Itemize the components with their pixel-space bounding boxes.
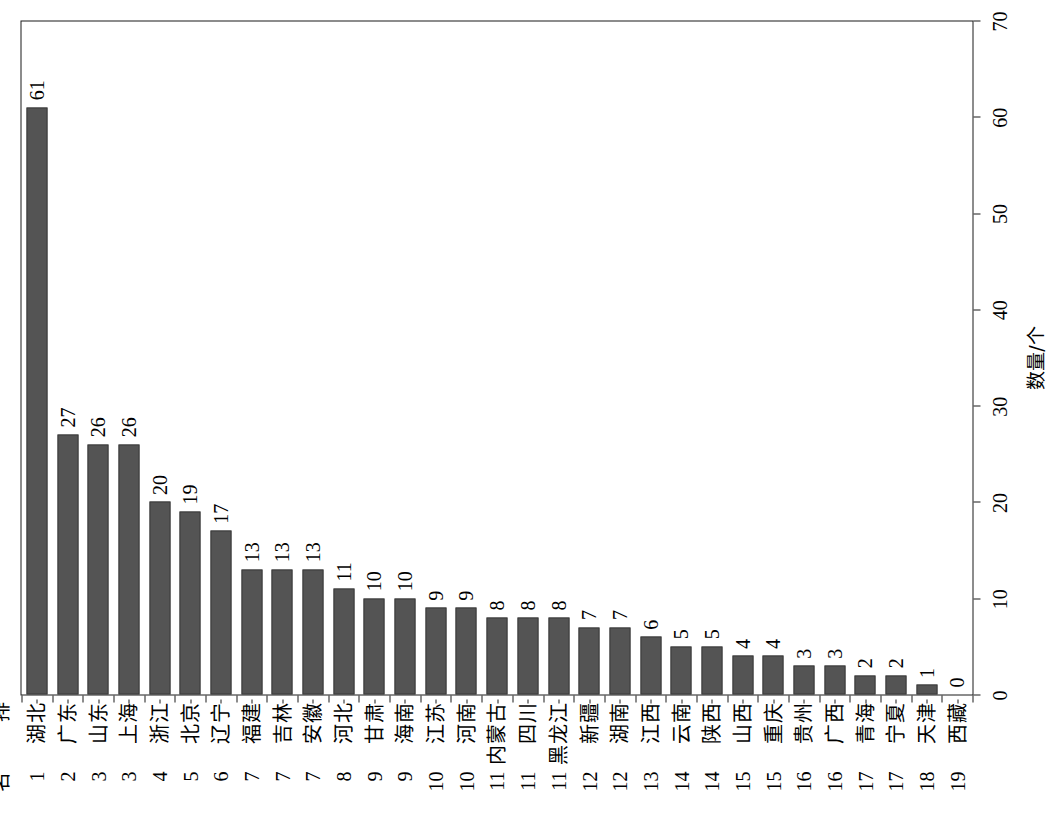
- bar-value-label: 1: [913, 667, 939, 677]
- category-label-row: 广东2: [52, 695, 83, 817]
- bar-chart: 6127262620191713131311101099888776554433…: [0, 0, 1061, 817]
- bar-row: 8: [543, 20, 574, 694]
- value-axis-ticks: [973, 20, 981, 695]
- bar-value-label: 0: [943, 677, 969, 687]
- bar: [57, 434, 78, 694]
- category-label-province: 甘肃: [361, 701, 387, 743]
- bar: [916, 684, 937, 694]
- value-axis-tick-label: 20: [984, 492, 1014, 512]
- category-label-row: 新疆12: [573, 695, 604, 817]
- bar-value-label: 13: [238, 542, 264, 562]
- category-label-rank: 17: [852, 771, 878, 801]
- bar-row: 13: [236, 20, 267, 694]
- bar-row: 8: [512, 20, 543, 694]
- bar: [455, 607, 476, 694]
- category-label-rank: 6: [207, 771, 233, 801]
- category-label-rank: 11: [514, 771, 540, 801]
- category-label-province: 西藏: [944, 701, 970, 743]
- category-label-province: 山西: [729, 701, 755, 743]
- category-label-row: 福建7: [236, 695, 267, 817]
- bar-value-label: 11: [330, 562, 356, 581]
- category-label-rank: 16: [821, 771, 847, 801]
- category-label-rank: 1: [23, 771, 49, 801]
- category-label-row: 安徽7: [297, 695, 328, 817]
- value-axis-tick-label: 50: [984, 204, 1014, 224]
- category-label-row: 贵州16: [788, 695, 819, 817]
- category-label-province: 海南: [391, 701, 417, 743]
- bar-row: 61: [21, 20, 52, 694]
- bar-value-label: 26: [84, 417, 110, 437]
- bar: [26, 107, 47, 694]
- bar: [609, 627, 630, 694]
- bar-value-label: 5: [698, 629, 724, 639]
- category-label-row: 辽宁6: [205, 695, 236, 817]
- category-label-province: 黑龙江: [545, 701, 571, 764]
- bar-value-label: 8: [545, 600, 571, 610]
- category-label-row: 天津18: [911, 695, 942, 817]
- bar-value-label: 9: [422, 590, 448, 600]
- category-label-rank: 12: [606, 771, 632, 801]
- category-label-province: 浙江: [146, 701, 172, 743]
- bar-row: 20: [144, 20, 175, 694]
- bar-value-label: 13: [299, 542, 325, 562]
- rotated-chart-stage: 6127262620191713131311101099888776554433…: [0, 0, 1061, 817]
- bar-row: 5: [665, 20, 696, 694]
- bar-row: 0: [941, 20, 972, 694]
- category-label-rank: 15: [729, 771, 755, 801]
- bar-value-label: 10: [360, 571, 386, 591]
- bar-value-label: 3: [790, 648, 816, 658]
- bar-row: 3: [819, 20, 850, 694]
- bar-value-label: 10: [391, 571, 417, 591]
- bar-row: 13: [266, 20, 297, 694]
- category-label-rank: 4: [146, 771, 172, 801]
- bar-row: 17: [205, 20, 236, 694]
- category-label-rank: 3: [85, 771, 111, 801]
- category-label-rank: 3: [115, 771, 141, 801]
- category-label-row: 西藏19: [941, 695, 972, 817]
- bar: [486, 617, 507, 694]
- bar: [179, 511, 200, 694]
- bar-row: 4: [757, 20, 788, 694]
- bar-value-label: 61: [23, 80, 49, 100]
- category-label-province: 天津: [913, 701, 939, 743]
- bars-layer: 6127262620191713131311101099888776554433…: [21, 20, 972, 694]
- category-label-rank: 5: [177, 771, 203, 801]
- category-axis-labels: 排 名 湖北1广东2山东3上海3浙江4北京5辽宁6福建7吉林7安徽7河北8甘肃9…: [21, 695, 972, 817]
- category-label-province: 江西: [637, 701, 663, 743]
- category-label-rank: 10: [453, 771, 479, 801]
- category-label-row: 云南14: [665, 695, 696, 817]
- value-axis-tick-label: 10: [984, 589, 1014, 609]
- category-label-rank: 14: [668, 771, 694, 801]
- category-label-rank: 7: [299, 771, 325, 801]
- category-label-rank: 13: [637, 771, 663, 801]
- bar-value-label: 20: [146, 474, 172, 494]
- bar-row: 11: [328, 20, 359, 694]
- category-label-province: 湖北: [23, 701, 49, 743]
- category-header-name: 排: [0, 701, 13, 721]
- value-axis-tick-label: 70: [984, 11, 1014, 31]
- category-label-row: 北京5: [174, 695, 205, 817]
- category-label-rank: 11: [545, 771, 571, 801]
- category-label-row: 河北8: [328, 695, 359, 817]
- category-label-province: 贵州: [790, 701, 816, 743]
- category-label-province: 山东: [85, 701, 111, 743]
- category-label-row: 山西15: [727, 695, 758, 817]
- category-label-row: 广西16: [819, 695, 850, 817]
- category-label-province: 吉林: [269, 701, 295, 743]
- bar: [732, 656, 753, 695]
- category-label-province: 内蒙古: [483, 701, 509, 764]
- category-label-province: 河北: [330, 701, 356, 743]
- bar-row: 2: [849, 20, 880, 694]
- category-label-row: 江苏10: [420, 695, 451, 817]
- value-axis-tick: [973, 309, 980, 310]
- category-label-province: 广东: [54, 701, 80, 743]
- category-label-province: 陕西: [698, 701, 724, 743]
- value-axis-tick: [973, 116, 980, 117]
- bar-value-label: 3: [821, 648, 847, 658]
- value-axis-tick: [973, 501, 980, 502]
- bar-row: 13: [297, 20, 328, 694]
- category-label-row: 宁夏17: [880, 695, 911, 817]
- bar-value-label: 5: [667, 629, 693, 639]
- category-label-rank: 9: [361, 771, 387, 801]
- category-label-rank: 17: [882, 771, 908, 801]
